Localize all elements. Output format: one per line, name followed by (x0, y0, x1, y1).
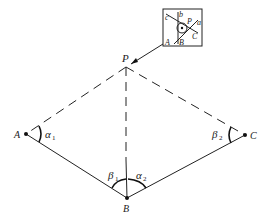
inset-label-cap-c: C (192, 32, 198, 41)
angle-label-alpha1: α 1 (45, 128, 56, 142)
label-a: A (13, 129, 21, 140)
angle-label-beta1: β 1 (107, 169, 119, 183)
alpha1-symbol: α (45, 128, 51, 140)
beta1-subscript: 1 (115, 175, 119, 183)
inset-label-cap-a: A (164, 38, 170, 47)
label-c: C (250, 130, 257, 141)
beta2-subscript: 2 (219, 134, 223, 142)
beta2-symbol: β (211, 128, 218, 140)
inset-label-p: P (186, 17, 192, 26)
label-p: P (121, 52, 129, 64)
inset-center-dot (181, 27, 183, 29)
angle-label-beta2: β 2 (211, 128, 223, 142)
edge-a-b (26, 134, 127, 198)
inset-leader (131, 44, 163, 64)
edge-p-a (26, 67, 126, 134)
point-a-marker (24, 132, 28, 136)
edge-b-c (127, 135, 245, 198)
traverse-diagram: P A B C α 1 β 1 α 2 β 2 c b P a C A B (0, 0, 265, 224)
point-c-marker (243, 133, 247, 137)
inset-label-b: b (179, 10, 183, 19)
leader-arrowhead-icon (131, 58, 138, 64)
label-b: B (123, 203, 129, 214)
edge-p-b-solid (126, 160, 127, 198)
alpha2-symbol: α (136, 169, 142, 181)
beta1-symbol: β (107, 169, 114, 181)
point-b-marker (125, 196, 129, 200)
angle-label-alpha2: α 2 (136, 169, 147, 183)
alpha2-subscript: 2 (143, 175, 147, 183)
inset-label-a: a (197, 18, 201, 27)
inset-error-triangle: c b P a C A B (163, 9, 202, 47)
inset-label-cap-b: B (179, 38, 184, 47)
angle-arc-beta2 (229, 127, 231, 143)
alpha1-subscript: 1 (52, 134, 56, 142)
inset-label-c: c (165, 13, 169, 22)
edge-p-c (126, 67, 245, 135)
angle-arc-alpha1 (39, 126, 41, 142)
